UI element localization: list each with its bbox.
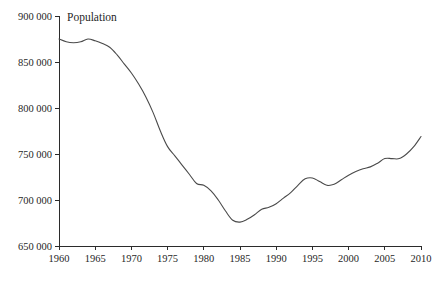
x-axis-tick-label: 2005: [374, 253, 395, 264]
chart-background: [0, 0, 434, 285]
y-axis-tick-label: 900 000: [18, 11, 52, 22]
y-axis-tick-label: 650 000: [18, 241, 52, 252]
x-axis-tick-label: 1995: [302, 253, 323, 264]
y-axis-tick-label: 750 000: [18, 149, 52, 160]
x-axis-tick-label: 1980: [193, 253, 214, 264]
series-annotation-label: Population: [67, 11, 117, 24]
chart-canvas: 900 000850 000800 000750 000700 000650 0…: [0, 0, 434, 285]
population-line-chart: 900 000850 000800 000750 000700 000650 0…: [0, 0, 434, 285]
x-axis-tick-label: 1965: [85, 253, 106, 264]
y-axis-tick-label: 800 000: [18, 103, 52, 114]
x-axis-tick-label: 1985: [230, 253, 251, 264]
x-axis-tick-label: 1990: [266, 253, 287, 264]
x-axis-tick-label: 2000: [338, 253, 359, 264]
x-axis-tick-label: 1960: [49, 253, 70, 264]
x-axis-tick-label: 1975: [157, 253, 178, 264]
x-axis-tick-label: 1970: [121, 253, 142, 264]
x-axis-tick-label: 2010: [411, 253, 432, 264]
y-axis-tick-label: 850 000: [18, 57, 52, 68]
y-axis-tick-label: 700 000: [18, 195, 52, 206]
